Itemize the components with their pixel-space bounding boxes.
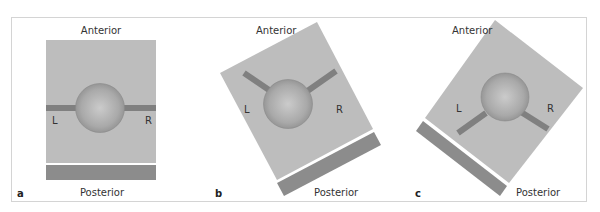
label-anterior: Anterior [452, 25, 493, 36]
panel-b: Anterior Posterior L R b [215, 22, 381, 199]
rod-left [46, 105, 80, 111]
figure-canvas: Anterior Posterior L R a Anterior Poster… [0, 0, 600, 212]
label-posterior: Posterior [314, 187, 359, 198]
label-left: L [52, 115, 58, 126]
sphere [481, 73, 529, 121]
label-posterior: Posterior [516, 187, 561, 198]
panel-a: Anterior Posterior L R a [17, 25, 156, 199]
label-anterior: Anterior [256, 25, 297, 36]
label-anterior: Anterior [81, 25, 122, 36]
panel-c: Anterior Posterior L R c [415, 20, 583, 199]
rod-right [120, 105, 156, 111]
panel-letter: a [17, 188, 24, 199]
label-left: L [456, 103, 462, 114]
panel-letter: b [215, 188, 222, 199]
label-right: R [145, 115, 152, 126]
panel-letter: c [415, 188, 421, 199]
sphere [76, 84, 125, 133]
label-posterior: Posterior [80, 187, 125, 198]
label-right: R [547, 103, 554, 114]
sphere [264, 80, 313, 129]
posterior-bar [46, 165, 156, 180]
label-left: L [244, 104, 250, 115]
label-right: R [336, 104, 343, 115]
